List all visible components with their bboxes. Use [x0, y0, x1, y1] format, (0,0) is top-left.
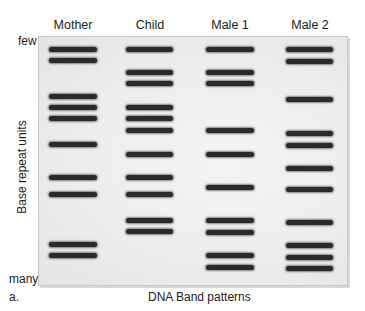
dna-band	[49, 105, 97, 110]
dna-band	[49, 58, 97, 63]
dna-band	[49, 47, 97, 52]
dna-band	[286, 131, 333, 136]
panel-label: a.	[9, 290, 19, 304]
dna-band	[126, 175, 173, 180]
dna-band	[49, 175, 97, 180]
dna-band	[286, 255, 333, 260]
dna-band	[206, 218, 254, 223]
dna-band	[49, 116, 97, 121]
dna-band	[49, 94, 97, 99]
dna-band	[206, 253, 254, 258]
dna-band	[286, 59, 333, 64]
x-axis-title: DNA Band patterns	[148, 290, 251, 304]
lane-label-child: Child	[110, 18, 190, 32]
dna-band	[286, 220, 333, 225]
lane-label-male-1: Male 1	[190, 18, 270, 32]
dna-band	[206, 81, 254, 86]
lane-label-male-2: Male 2	[270, 18, 350, 32]
dna-band	[206, 128, 254, 133]
dna-band	[286, 97, 333, 102]
y-axis-bottom-label: many	[9, 272, 38, 286]
dna-band	[206, 70, 254, 75]
dna-band	[126, 81, 173, 86]
dna-band	[126, 192, 173, 197]
dna-band	[126, 152, 173, 157]
dna-band	[286, 166, 333, 171]
dna-band	[206, 230, 254, 235]
dna-band	[286, 187, 333, 192]
dna-band	[126, 128, 173, 133]
dna-band	[286, 47, 333, 52]
dna-band	[49, 142, 97, 147]
dna-band	[49, 242, 97, 247]
dna-band	[206, 47, 254, 52]
gel-panel	[38, 36, 348, 286]
dna-band	[126, 116, 173, 121]
y-axis-title: Base repeat units	[15, 120, 29, 213]
dna-band	[126, 47, 173, 52]
dna-band	[126, 70, 173, 75]
dna-band	[286, 243, 333, 248]
lane-label-mother: Mother	[33, 18, 113, 32]
dna-band	[286, 266, 333, 271]
dna-band	[49, 192, 97, 197]
dna-band	[206, 185, 254, 190]
dna-band	[126, 218, 173, 223]
dna-band	[126, 229, 173, 234]
dna-band	[126, 105, 173, 110]
dna-band	[286, 143, 333, 148]
y-axis-top-label: few	[18, 34, 37, 48]
dna-band	[206, 265, 254, 270]
dna-band	[206, 152, 254, 157]
dna-band	[49, 253, 97, 258]
